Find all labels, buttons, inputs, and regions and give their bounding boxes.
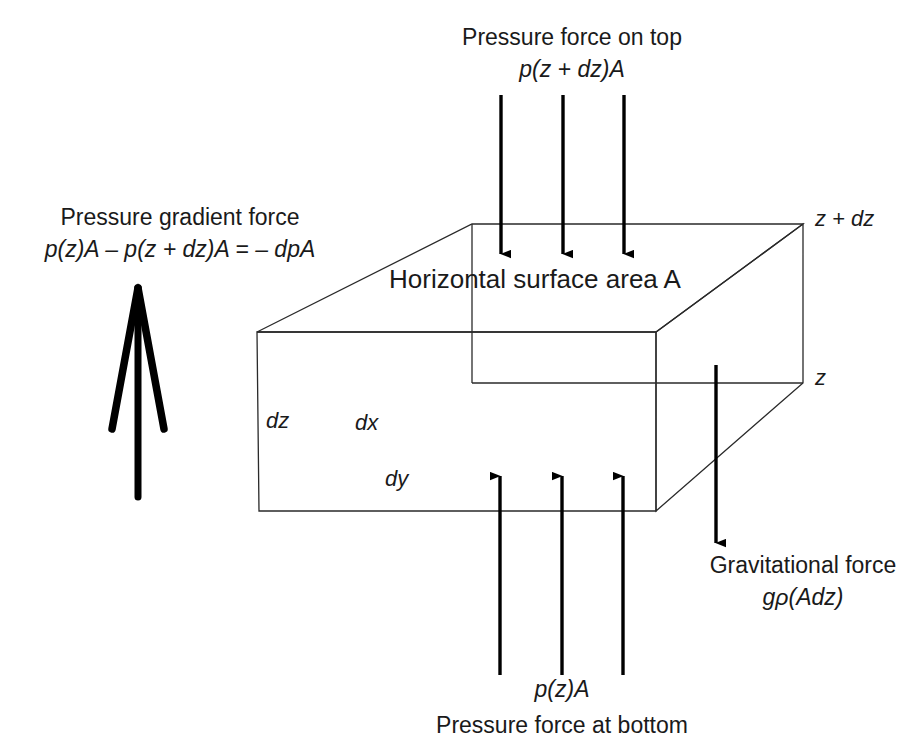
horizontal-surface-area-label: Horizontal surface area A <box>389 264 681 295</box>
level-bottom-label: z <box>815 365 826 391</box>
dimension-dx-label: dx <box>355 410 378 436</box>
pressure-gradient-force-title: Pressure gradient force <box>60 204 299 231</box>
pressure-gradient-force-formula: p(z)A – p(z + dz)A = – dpA <box>45 236 316 263</box>
pgf-head-right <box>138 288 164 429</box>
dimension-dy-label: dy <box>385 466 408 492</box>
dimension-dz-label: dz <box>266 408 289 434</box>
level-top-label: z + dz <box>815 206 874 232</box>
bottom-force-title: Pressure force at bottom <box>436 712 688 739</box>
bottom-force-formula: p(z)A <box>535 676 590 703</box>
box-front-face <box>257 332 656 511</box>
bottom-pressure-arrows <box>500 476 623 675</box>
hydrostatic-balance-diagram <box>0 0 921 756</box>
top-pressure-arrows <box>501 95 624 254</box>
gravity-force-formula: gρ(Adz) <box>763 584 844 611</box>
gravity-force-title: Gravitational force <box>710 552 897 579</box>
pgf-head-left <box>112 288 138 429</box>
top-force-title: Pressure force on top <box>462 24 682 51</box>
top-force-formula: p(z + dz)A <box>519 56 624 83</box>
pressure-gradient-arrow <box>112 283 164 497</box>
